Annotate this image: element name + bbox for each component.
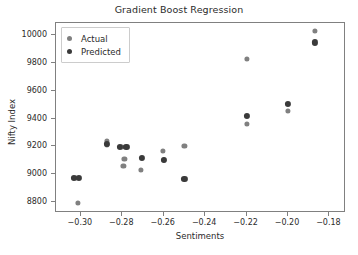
data-point-actual (138, 167, 143, 172)
data-point-actual (122, 156, 127, 161)
x-axis-tick (246, 212, 247, 216)
x-axis-tick-label: −0.18 (316, 218, 341, 227)
scatter-chart-figure: Gradient Boost Regression Nifty Index Se… (0, 0, 358, 255)
data-point-predicted (76, 175, 82, 181)
x-axis-tick (204, 212, 205, 216)
x-axis-label: Sentiments (55, 231, 345, 241)
x-axis-tick (121, 212, 122, 216)
data-point-predicted (285, 101, 291, 107)
y-axis-tick-label: 9200 (27, 141, 47, 150)
legend-marker-icon-predicted (67, 49, 72, 54)
y-axis-tick-label: 8800 (27, 196, 47, 205)
data-point-predicted (243, 113, 249, 119)
data-point-predicted (312, 39, 318, 45)
chart-legend: Actual Predicted (61, 27, 130, 63)
data-point-predicted (139, 154, 145, 160)
x-axis-tick-label: −0.26 (150, 218, 175, 227)
y-axis-tick-label: 9000 (27, 169, 47, 178)
x-axis-tick-label: −0.22 (233, 218, 258, 227)
legend-marker-icon-actual (67, 36, 72, 41)
data-point-actual (244, 56, 249, 61)
data-point-predicted (104, 141, 110, 147)
y-axis-tick-label: 9400 (27, 113, 47, 122)
x-axis-tick (163, 212, 164, 216)
x-axis-tick-label: −0.30 (68, 218, 93, 227)
data-point-actual (244, 122, 249, 127)
legend-label-predicted: Predicted (81, 47, 121, 57)
y-axis-tick-label: 9800 (27, 58, 47, 67)
x-axis-tick (287, 212, 288, 216)
data-point-predicted (181, 176, 187, 182)
data-point-actual (121, 163, 126, 168)
data-point-actual (285, 108, 290, 113)
x-axis-tick-label: −0.28 (109, 218, 134, 227)
data-point-actual (182, 143, 187, 148)
plot-area: Actual Predicted (55, 22, 345, 212)
x-axis-tick-label: −0.20 (275, 218, 300, 227)
data-point-predicted (123, 144, 129, 150)
data-point-actual (75, 201, 80, 206)
data-point-predicted (161, 157, 167, 163)
legend-item-predicted: Predicted (67, 45, 121, 58)
data-point-actual (312, 28, 317, 33)
x-axis-tick (328, 212, 329, 216)
y-axis-label: Nifty Index (7, 72, 17, 172)
legend-item-actual: Actual (67, 32, 121, 45)
y-axis-tick-label: 9600 (27, 85, 47, 94)
y-axis-tick-label: 10000 (22, 30, 47, 39)
data-point-actual (160, 148, 165, 153)
chart-title: Gradient Boost Regression (0, 4, 358, 15)
x-axis-tick-label: −0.24 (192, 218, 217, 227)
legend-label-actual: Actual (81, 34, 108, 44)
x-axis-tick (80, 212, 81, 216)
